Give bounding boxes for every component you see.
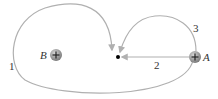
point-marker — [116, 55, 120, 59]
diagram: A B 1 2 3 — [0, 0, 218, 99]
charge-b — [50, 49, 62, 61]
path-3-label: 3 — [193, 22, 199, 34]
charge-b-label: B — [40, 49, 47, 61]
path-3 — [120, 16, 196, 52]
path-2-label: 2 — [154, 59, 160, 71]
charge-a-label: A — [202, 51, 210, 63]
charge-a — [189, 51, 201, 63]
path-1-label: 1 — [9, 60, 15, 72]
